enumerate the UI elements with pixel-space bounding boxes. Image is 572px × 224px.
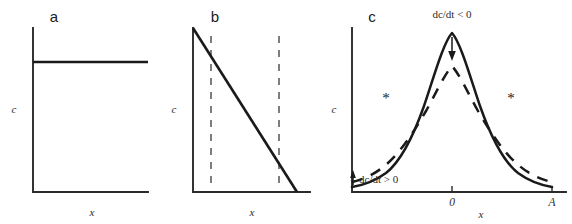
panel-c-ylabel: c bbox=[332, 103, 337, 115]
panel-c-crossing-marker-left: * bbox=[382, 90, 390, 106]
panel-c-peak-annotation: dc/dt < 0 bbox=[432, 8, 472, 20]
panel-a-xlabel: x bbox=[89, 206, 95, 218]
panel-c-crossing-marker-right: * bbox=[507, 90, 515, 106]
panel-c-later-profile-curve bbox=[352, 66, 552, 182]
panel-b: b x c bbox=[172, 8, 310, 218]
panel-b-letter: b bbox=[211, 8, 219, 25]
panel-b-xlabel: x bbox=[249, 206, 255, 218]
panel-c: c dc/dt < 0 dc/dt > 0 * * 0 A x c bbox=[332, 8, 566, 220]
panel-b-gradient-curve bbox=[193, 28, 297, 192]
panel-c-base-arrow bbox=[350, 170, 356, 185]
panel-a-letter: a bbox=[50, 8, 59, 25]
panel-a-axes bbox=[33, 28, 148, 192]
panel-c-axes bbox=[352, 28, 566, 192]
figure-container: a x c b x c bbox=[0, 0, 572, 224]
panel-b-ylabel: c bbox=[172, 103, 177, 115]
panel-c-letter: c bbox=[368, 8, 376, 25]
panel-c-xlabel: x bbox=[478, 208, 484, 220]
panel-c-xticklabel-A: A bbox=[547, 196, 556, 208]
panel-c-peak-arrow bbox=[448, 37, 456, 61]
panel-c-base-annotation: dc/dt > 0 bbox=[359, 173, 399, 185]
panel-a-ylabel: c bbox=[12, 103, 17, 115]
figure-svg: a x c b x c bbox=[0, 0, 572, 224]
panel-a: a x c bbox=[12, 8, 148, 218]
panel-c-xticklabel-zero: 0 bbox=[449, 196, 455, 208]
